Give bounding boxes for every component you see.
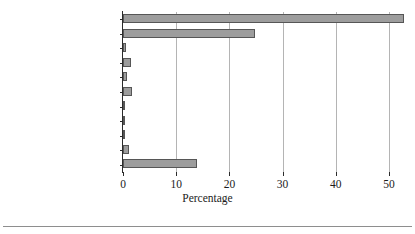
x-tick-label: 20	[224, 178, 236, 190]
bar-row: Buddhist	[123, 99, 389, 113]
x-tick-mark	[123, 172, 124, 176]
bar-row: Jewish	[123, 85, 389, 99]
bar	[123, 14, 404, 23]
bar-row: Hindu	[123, 114, 389, 128]
x-tick-mark	[229, 172, 230, 176]
bar-row: Muslim	[123, 128, 389, 142]
bar	[123, 130, 125, 139]
bar	[123, 43, 126, 52]
bar-row: Orthodox Christian	[123, 41, 389, 55]
bar-row: Interdenominational	[123, 70, 389, 84]
x-tick-label: 40	[330, 178, 342, 190]
bar	[123, 145, 129, 154]
x-tick-label: 30	[277, 178, 289, 190]
bar	[123, 58, 131, 67]
bar-row: Protestant	[123, 12, 389, 26]
bar-row: Catholic	[123, 27, 389, 41]
x-tick-mark	[389, 172, 390, 176]
bar	[123, 29, 255, 38]
x-tick-label: 0	[120, 178, 126, 190]
bar	[123, 159, 197, 168]
bar	[123, 72, 127, 81]
bottom-divider	[3, 226, 412, 227]
bar-row: No Religion	[123, 157, 389, 171]
bar-chart-figure: 01020304050ProtestantCatholicOrthodox Ch…	[0, 0, 415, 234]
gridline	[389, 12, 390, 172]
x-tick-mark	[283, 172, 284, 176]
bar	[123, 101, 125, 110]
bar	[123, 87, 132, 96]
plot-area: 01020304050ProtestantCatholicOrthodox Ch…	[123, 12, 389, 172]
x-axis-title: Percentage	[0, 192, 415, 204]
bar-row: Other religion	[123, 143, 389, 157]
x-tick-label: 10	[170, 178, 182, 190]
bar-row: “Christian”	[123, 56, 389, 70]
x-tick-mark	[336, 172, 337, 176]
x-tick-mark	[176, 172, 177, 176]
x-tick-label: 50	[383, 178, 395, 190]
bar	[123, 116, 125, 125]
